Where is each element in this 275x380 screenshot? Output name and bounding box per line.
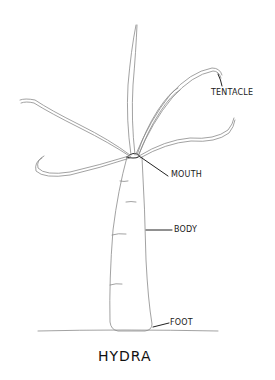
label-tentacle: TENTACLE [210,88,253,97]
label-foot: FOOT [170,318,193,327]
label-body: BODY [174,225,197,234]
tentacles [20,25,235,176]
foot-leader [153,323,169,327]
label-mouth: MOUTH [171,170,202,179]
mouth-leader [139,156,168,176]
diagram-title: HYDRA [98,348,152,364]
hydra-diagram: TENTACLE MOUTH BODY FOOT HYDRA [0,0,275,380]
hydra-body [110,153,152,331]
